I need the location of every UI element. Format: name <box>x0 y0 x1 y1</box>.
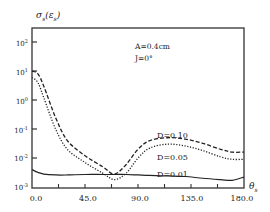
y-tick-label: 100 <box>4 97 28 106</box>
x-tick-label: 180.0 <box>231 195 254 203</box>
y-axis-label: σs(εs) <box>36 11 60 22</box>
param-a-annotation: A=0.4cm <box>135 43 170 51</box>
x-axis-label: θs <box>249 182 258 193</box>
curve-d005 <box>32 77 244 179</box>
legend-d005: D=0.05 <box>157 154 188 162</box>
chart-plot <box>0 0 270 212</box>
y-tick-label: 10-2 <box>4 154 28 163</box>
curve-d001 <box>32 170 244 181</box>
x-tick-label: 0.0 <box>30 195 43 203</box>
x-tick-label: 135.0 <box>181 195 204 203</box>
x-tick-label: 45.0 <box>79 195 97 203</box>
y-tick-label: 101 <box>4 68 28 77</box>
plot-frame <box>32 28 244 188</box>
curve-d010 <box>32 71 244 174</box>
param-j-annotation: J=0° <box>135 55 153 63</box>
data-curves <box>32 71 244 180</box>
x-tick-label: 90.0 <box>131 195 149 203</box>
legend-d001: D=0.01 <box>157 171 188 179</box>
y-tick-label: 102 <box>4 39 28 48</box>
y-tick-label: 10-1 <box>4 126 28 135</box>
legend-d010: D=0.10 <box>157 132 188 140</box>
y-tick-label: 10-3 <box>4 183 28 192</box>
